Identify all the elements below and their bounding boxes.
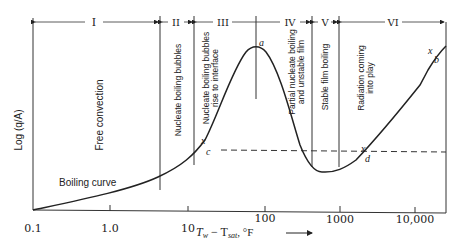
svg-text:100: 100 [255,212,276,225]
svg-text:III: III [217,17,229,28]
boiling-curve-diagram: 0.1 1.0 10 100 1000 10,000 Tw − Tsat, °F… [0,0,464,252]
x-axis-label: Tw − Tsat, °F [196,225,312,240]
svg-text:Tw − Tsat, °F: Tw − Tsat, °F [196,225,253,240]
x-axis [33,210,446,213]
svg-text:a: a [259,37,264,48]
svg-text:IV: IV [284,17,296,28]
region-numerals: I II III IV V VI [92,16,399,29]
svg-text:Nucleate boiling bubbles: Nucleate boiling bubbles [173,44,183,137]
svg-text:rise to interface: rise to interface [210,49,220,107]
svg-text:0.1: 0.1 [24,222,42,235]
svg-text:x: x [200,135,206,146]
svg-text:1000: 1000 [326,213,354,226]
reference-dashed-line [221,150,446,152]
svg-text:c: c [206,146,211,157]
svg-text:VI: VI [386,17,398,28]
svg-text:x: x [427,45,433,56]
svg-text:Free convection: Free convection [94,79,105,150]
svg-text:II: II [172,17,180,28]
svg-text:b: b [434,54,439,65]
svg-text:10: 10 [181,222,195,235]
svg-text:10,000: 10,000 [396,213,435,226]
svg-text:I: I [92,16,96,29]
svg-text:and unstable film: and unstable film [296,40,306,104]
y-axis-label: Log (q/A) [13,109,24,150]
region-dividers [160,16,339,190]
svg-text:into play: into play [365,61,375,93]
svg-text:Stable film boiling: Stable film boiling [320,43,330,110]
svg-text:V: V [320,17,329,28]
region-descriptions: Free convection Nucleate boiling bubbles… [94,29,375,151]
svg-text:1.0: 1.0 [101,222,119,235]
svg-text:d: d [365,153,371,164]
curve-label: Boiling curve [59,177,117,188]
